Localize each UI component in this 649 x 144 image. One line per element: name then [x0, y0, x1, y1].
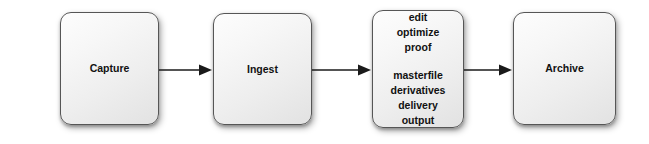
node-label-line: Ingest [247, 62, 278, 77]
node-label-line: optimize [397, 25, 440, 40]
node-text-stack: edit optimize proof masterfile derivativ… [373, 10, 463, 127]
node-label-line: Capture [90, 61, 130, 76]
node-label-line: derivatives [391, 83, 446, 98]
connector-arrow-capture-to-ingest [159, 64, 213, 76]
process-node-capture[interactable]: Capture [60, 12, 159, 125]
node-label-line: delivery [398, 98, 438, 113]
connector-arrow-ingest-to-process [312, 64, 372, 76]
node-label-line: proof [405, 40, 432, 55]
connector-arrow-process-to-archive [464, 64, 513, 76]
node-label-line: output [402, 113, 435, 128]
stack-group: Capture [90, 61, 130, 76]
process-node-process[interactable]: edit optimize proof masterfile derivativ… [372, 10, 464, 128]
node-label-line: masterfile [393, 68, 443, 83]
node-text-stack: Capture [61, 61, 158, 76]
node-text-stack: Archive [514, 61, 615, 76]
stack-group-primary: edit optimize proof [397, 10, 440, 55]
process-node-ingest[interactable]: Ingest [213, 13, 312, 125]
stack-group-secondary: masterfile derivatives delivery output [391, 68, 446, 128]
node-text-stack: Ingest [214, 62, 311, 77]
node-label-line: edit [409, 10, 428, 25]
process-node-archive[interactable]: Archive [513, 12, 616, 125]
stack-group: Ingest [247, 62, 278, 77]
stack-group: Archive [545, 61, 584, 76]
process-flow-diagram: Capture Ingest edit optimize pro [0, 0, 649, 144]
node-label-line: Archive [545, 61, 584, 76]
